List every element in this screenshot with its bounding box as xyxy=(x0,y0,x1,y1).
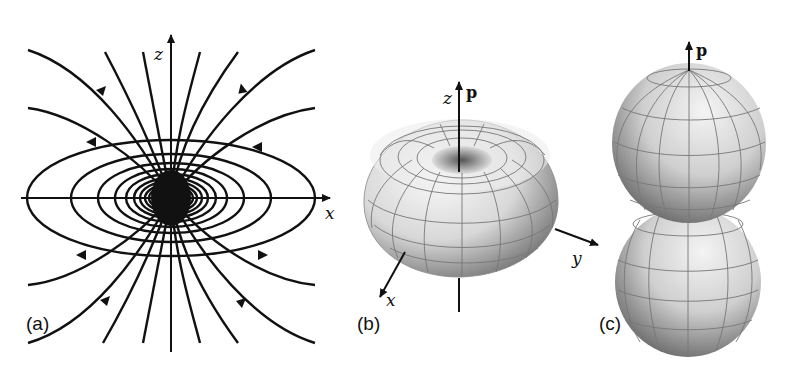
panel-label-c: (c) xyxy=(599,313,621,334)
panel-c-lobes xyxy=(612,63,766,357)
x-axis-label-b: x xyxy=(386,290,396,310)
p-vector-label-b: p xyxy=(466,83,477,102)
panel-label-a: (a) xyxy=(26,313,49,334)
z-axis-label-a: z xyxy=(153,44,164,64)
panel-b-torus xyxy=(364,119,558,277)
z-axis-label-b: z xyxy=(442,88,453,108)
y-axis-label-b: y xyxy=(571,248,582,268)
p-vector-label-c: p xyxy=(696,41,707,60)
panel-label-b: (b) xyxy=(357,313,380,334)
dipole-figure: x z (a) xyxy=(0,0,788,371)
x-axis-label-a: x xyxy=(325,203,335,223)
